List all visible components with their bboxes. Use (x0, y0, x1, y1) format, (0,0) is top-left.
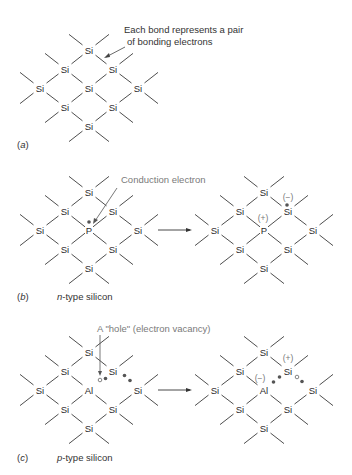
panel-c-right-lattice-atom-al: Al (260, 385, 268, 396)
panel-b-right-lattice-atom-si: Si (284, 206, 292, 217)
panel-c-right-lattice-atom-si: Si (309, 385, 317, 396)
panel-c-arrowhead-right-icon (186, 388, 192, 392)
hole-circle-left (98, 378, 102, 382)
panel-b-subtitle: n-type silicon (57, 291, 112, 302)
electron-dot-right-1 (272, 380, 276, 384)
panel-b-arrowhead-right-icon (186, 228, 192, 232)
panel-c-neighbor-charge: (+) (283, 353, 294, 363)
panel-b-left-lattice-atom-si: Si (109, 206, 117, 217)
panel-c-right-lattice-atom-si: Si (211, 385, 219, 396)
panel-b-left-lattice-atom-p: P (86, 225, 92, 236)
panel-a-annotation-line2: of bonding electrons (127, 36, 213, 47)
panel-b-dopant-charge: (+) (258, 213, 269, 223)
panel-c-dopant-charge: (−) (255, 373, 266, 383)
panel-a-arrowhead-icon (104, 53, 110, 58)
panel-b-annotation: Conduction electron (121, 174, 206, 185)
panel-a-lattice-atom-si: Si (109, 102, 117, 113)
panel-c-right-lattice-atom-si: Si (260, 423, 268, 434)
electron-dot-right-2 (278, 375, 282, 379)
panel-a-label: (a) (17, 139, 29, 150)
panel-a-lattice-atom-si: Si (109, 64, 117, 75)
panel-c-left-lattice-atom-si: Si (61, 404, 69, 415)
panel-b-left-lattice-atom-si: Si (61, 244, 69, 255)
panel-b-right-lattice-atom-si: Si (236, 244, 244, 255)
electron-dot-right-3 (300, 380, 304, 384)
panel-a-lattice-atom-si: Si (85, 83, 93, 94)
panel-b-label: (b) (17, 291, 29, 302)
panel-c-left-lattice-atom-si: Si (85, 423, 93, 434)
panel-b-right-lattice-atom-si: Si (211, 225, 219, 236)
panel-a-lattice-atom-si: Si (61, 64, 69, 75)
panel-b-neighbor-charge: (−) (283, 192, 294, 202)
panel-a-lattice-atom-si: Si (36, 83, 44, 94)
panel-a-lattice-atom-si: Si (134, 83, 142, 94)
hole-circle-right (295, 375, 299, 379)
electron-dot-left-1 (104, 377, 108, 381)
panel-a-lattice-atom-si: Si (85, 45, 93, 56)
panel-c-right-lattice-atom-si: Si (284, 404, 292, 415)
panel-b-left-lattice-atom-si: Si (85, 263, 93, 274)
panel-b-left-lattice-atom-si: Si (61, 206, 69, 217)
panel-b-left-lattice-atom-si: Si (109, 244, 117, 255)
panel-c-left-lattice-atom-si: Si (61, 366, 69, 377)
panel-c-left-lattice-atom-si: Si (36, 385, 44, 396)
panel-c-right-lattice-atom-si: Si (236, 366, 244, 377)
panel-b-right-lattice-atom-si: Si (260, 263, 268, 274)
bound-electron-dot (285, 203, 289, 207)
panel-b-right-lattice-atom-si: Si (284, 244, 292, 255)
panel-b-right-lattice-atom-si: Si (260, 187, 268, 198)
panel-b-left-lattice-atom-si: Si (134, 225, 142, 236)
atoms-layer: SiSiSiSiSiSiSiSiSiSiSiSiSiPSiSiSiSiSiSiS… (34, 44, 320, 434)
panel-c-left-lattice-atom-si: Si (109, 366, 117, 377)
panel-c-left-lattice-atom-al: Al (85, 385, 93, 396)
panel-c-left-lattice-atom-si: Si (134, 385, 142, 396)
panel-b-right-lattice-atom-si: Si (236, 206, 244, 217)
panel-c-right-lattice-atom-si: Si (236, 404, 244, 415)
panel-a-annotation-line1: Each bond represents a pair (124, 24, 243, 35)
semiconductor-doping-figure: SiSiSiSiSiSiSiSiSiSiSiSiSiPSiSiSiSiSiSiS… (0, 0, 352, 475)
panel-c-left-lattice-atom-si: Si (85, 347, 93, 358)
electron-dot-left-2 (123, 374, 127, 378)
panel-b-right-lattice-atom-si: Si (309, 225, 317, 236)
panel-c-subtitle: p-type silicon (56, 452, 112, 463)
panel-c-right-lattice-atom-si: Si (260, 347, 268, 358)
bonds-layer (20, 34, 333, 443)
conduction-electron-dot (87, 220, 91, 224)
panel-c-label: (c) (17, 452, 28, 463)
electron-dot-left-3 (128, 379, 132, 383)
panel-b-left-lattice-atom-si: Si (36, 225, 44, 236)
panel-c-right-lattice-atom-si: Si (284, 366, 292, 377)
panel-c-annotation: A "hole" (electron vacancy) (97, 323, 210, 334)
panel-a-lattice-atom-si: Si (61, 102, 69, 113)
panel-c-arrowhead-icon (98, 371, 102, 376)
panel-a-lattice-atom-si: Si (85, 121, 93, 132)
panel-c-left-lattice-atom-si: Si (109, 404, 117, 415)
panel-b-left-lattice-atom-si: Si (85, 187, 93, 198)
panel-b-right-lattice-atom-p: P (261, 225, 267, 236)
